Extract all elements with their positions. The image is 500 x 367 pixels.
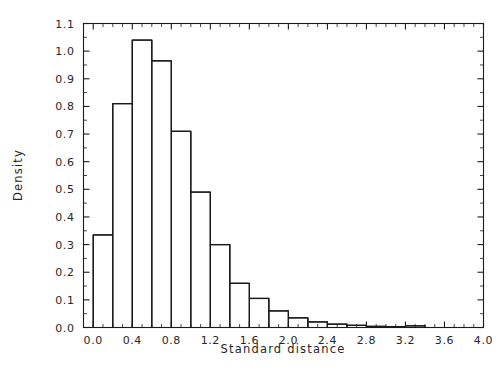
y-tick-label: 0.1: [55, 294, 74, 307]
y-tick-label: 0.6: [55, 156, 74, 169]
histogram-bar: [132, 40, 152, 327]
x-tick-label: 3.6: [435, 334, 454, 347]
y-tick-label: 0.5: [55, 183, 74, 196]
y-tick-label: 0.9: [55, 73, 74, 86]
histogram-figure: 0.00.40.81.21.62.02.42.83.23.64.00.00.10…: [0, 0, 500, 367]
histogram-bar: [152, 61, 172, 328]
histogram-bars: [84, 40, 484, 327]
x-tick-label: 2.8: [357, 334, 376, 347]
histogram-bar: [93, 235, 113, 328]
y-tick-label: 0.8: [55, 100, 74, 113]
axes-group: [84, 24, 484, 328]
histogram-outline: [93, 40, 425, 327]
y-tick-label: 0.3: [55, 239, 74, 252]
y-tick-label: 1.1: [55, 18, 74, 31]
y-tick-label: 0.4: [55, 211, 74, 224]
x-tick-label: 0.0: [84, 334, 103, 347]
histogram-bar: [171, 131, 191, 327]
histogram-bar: [249, 298, 269, 327]
y-tick-label: 1.0: [55, 45, 74, 58]
x-tick-label: 4.0: [474, 334, 493, 347]
x-tick-label: 0.8: [162, 334, 181, 347]
x-axis-title: Standard distance: [220, 342, 345, 356]
histogram-bar: [230, 283, 250, 327]
y-axis-title: Density: [11, 149, 25, 201]
x-tick-label: 1.2: [201, 334, 220, 347]
histogram-plot: 0.00.40.81.21.62.02.42.83.23.64.00.00.10…: [0, 0, 500, 367]
histogram-bar: [191, 192, 211, 327]
y-tick-label: 0.2: [55, 266, 74, 279]
histogram-bar: [113, 104, 133, 328]
x-tick-label: 3.2: [396, 334, 415, 347]
histogram-bar: [210, 245, 230, 328]
axis-tick-labels: 0.00.40.81.21.62.02.42.83.23.64.00.00.10…: [55, 18, 493, 347]
x-tick-label: 0.4: [123, 334, 142, 347]
y-tick-label: 0.0: [55, 322, 74, 335]
plot-frame: [84, 24, 484, 328]
y-tick-label: 0.7: [55, 128, 74, 141]
